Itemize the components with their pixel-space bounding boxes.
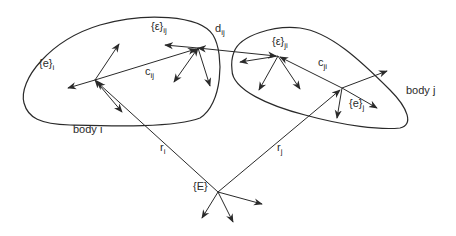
label-c-ji: cji (318, 56, 327, 71)
frame-eps-ji-axes (240, 56, 300, 90)
label-r-j: rj (277, 141, 283, 156)
label-body-i: body i (73, 123, 102, 135)
global-frame-E-axes (202, 192, 262, 222)
body-j-outline (232, 27, 408, 128)
label-c-ij: cij (145, 65, 154, 80)
vector-d-ij (198, 48, 276, 56)
multibody-diagram: {e}i cij {ε}ij dij {ε}ji cji {e}j body j… (0, 0, 456, 236)
label-eps-ji: {ε}ji (272, 35, 288, 50)
frame-e-i-axes (68, 44, 122, 112)
label-body-j: body j (406, 84, 435, 96)
vector-r-i (97, 82, 218, 192)
label-frame-E: {E} (193, 180, 208, 192)
label-eps-ij: {ε}ij (151, 20, 167, 35)
label-frame-e-i: {e}i (39, 57, 54, 72)
label-d-ij: dij (215, 22, 225, 37)
label-frame-e-j: {e}j (349, 97, 364, 112)
